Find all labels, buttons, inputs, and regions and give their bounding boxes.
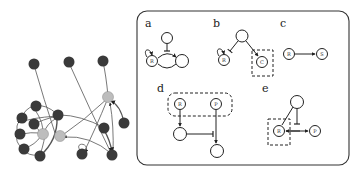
label-c: c <box>280 17 286 30</box>
subfigure-e: e R P <box>262 82 321 145</box>
subfigure-a: a R <box>145 17 189 68</box>
node-R: R <box>287 51 291 57</box>
subfigure-d: d R P <box>157 82 232 158</box>
network-nodes <box>15 56 130 162</box>
subfigure-b: b R C <box>213 17 273 76</box>
node-C: C <box>260 59 264 65</box>
label-a: a <box>145 17 152 30</box>
figure: a R b R C c R S d <box>0 0 357 174</box>
label-d: d <box>157 82 164 95</box>
node-S: S <box>320 51 324 57</box>
subfigure-c: c R S <box>280 17 328 60</box>
node-R: R <box>222 57 226 63</box>
node-R: R <box>277 128 281 134</box>
node-R: R <box>150 58 154 64</box>
label-b: b <box>213 17 220 30</box>
label-e: e <box>262 82 269 95</box>
node-R: R <box>178 101 182 107</box>
